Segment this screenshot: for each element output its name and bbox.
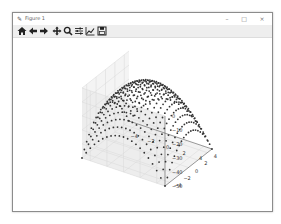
- svg-text:−30: −30: [172, 155, 183, 161]
- svg-text:−20: −20: [172, 141, 183, 147]
- svg-text:−2: −2: [183, 175, 190, 181]
- figure-canvas[interactable]: −4−2024−4−20240−10−20−30−40−50: [13, 38, 272, 211]
- svg-text:2: 2: [183, 150, 186, 156]
- svg-text:2: 2: [204, 160, 207, 166]
- svg-text:0: 0: [172, 113, 175, 119]
- svg-text:−40: −40: [172, 169, 183, 175]
- svg-text:−4: −4: [131, 133, 138, 139]
- svg-text:−2: −2: [147, 138, 154, 144]
- svg-text:0: 0: [195, 168, 198, 174]
- svg-text:−50: −50: [172, 183, 183, 189]
- svg-text:4: 4: [199, 155, 202, 161]
- figure-window: ✎ Figure 1 – □ ×: [12, 12, 273, 212]
- 3d-scatter-plot[interactable]: −4−2024−4−20240−10−20−30−40−50: [0, 1, 281, 224]
- svg-text:0: 0: [166, 144, 169, 150]
- svg-text:4: 4: [214, 153, 217, 159]
- svg-text:−10: −10: [172, 127, 183, 133]
